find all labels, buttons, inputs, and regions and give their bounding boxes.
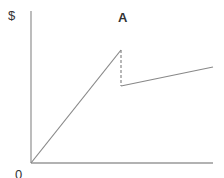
second-segment xyxy=(121,67,213,86)
chart-canvas xyxy=(0,0,224,178)
origin-label: 0 xyxy=(15,167,22,178)
rising-segment xyxy=(31,50,121,163)
annotation-a: A xyxy=(118,10,127,25)
y-axis-label: $ xyxy=(8,8,15,23)
